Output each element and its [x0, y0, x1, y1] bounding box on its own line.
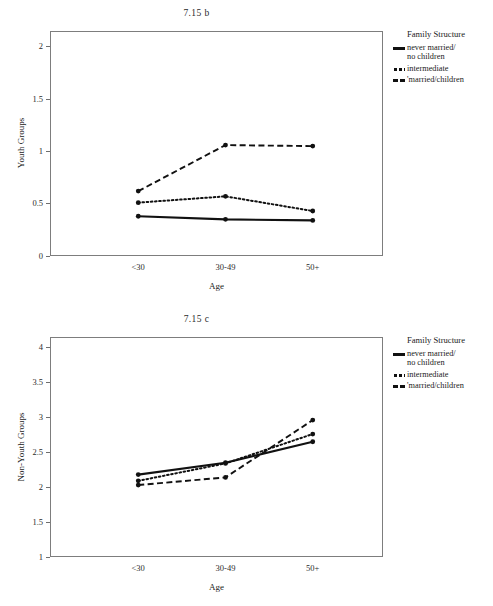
data-point: [310, 418, 315, 423]
legend-item-label: 'married/children: [407, 75, 464, 84]
legend-item-label-line2: no children: [407, 358, 465, 367]
data-point: [136, 200, 141, 205]
figure-7-15-c: 7.15 c11.522.533.54Non-Youth Groups<3030…: [0, 300, 493, 606]
data-point: [136, 478, 141, 483]
data-point: [136, 189, 141, 194]
legend-item-solid[interactable]: never married/no children: [393, 43, 465, 62]
legend-dashed-line-icon: [393, 79, 405, 82]
legend-dashed-line-icon: [393, 385, 405, 388]
legend-item-label-line2: no children: [407, 52, 465, 61]
data-point: [223, 217, 228, 222]
legend-title: Family Structure: [393, 30, 465, 40]
data-point: [223, 194, 228, 199]
data-point: [223, 143, 228, 148]
data-point: [310, 209, 315, 214]
series-line-solid: [138, 442, 312, 475]
series-line-dotted: [138, 434, 312, 481]
legend-item-label: 'married/children: [407, 381, 464, 390]
legend-item-solid[interactable]: never married/no children: [393, 349, 465, 368]
legend-solid-line-icon: [393, 353, 405, 356]
legend-item-dashed[interactable]: 'married/children: [393, 75, 465, 84]
data-point: [223, 461, 228, 466]
legend-item-label: never married/: [407, 43, 456, 52]
legend-item-dotted[interactable]: intermediate: [393, 370, 465, 379]
data-point: [136, 472, 141, 477]
legend-dotted-line-icon: [393, 374, 405, 377]
legend-dotted-line-icon: [393, 68, 405, 71]
legend: Family Structurenever married/no childre…: [393, 336, 465, 393]
data-point: [136, 483, 141, 488]
legend: Family Structurenever married/no childre…: [393, 30, 465, 87]
legend-item-label: intermediate: [407, 370, 448, 379]
data-point: [310, 218, 315, 223]
legend-item-dashed[interactable]: 'married/children: [393, 381, 465, 390]
data-point: [310, 144, 315, 149]
legend-item-dotted[interactable]: intermediate: [393, 64, 465, 73]
legend-title: Family Structure: [393, 336, 465, 346]
series-line-dashed: [138, 145, 312, 191]
legend-item-label: never married/: [407, 349, 456, 358]
data-point: [310, 439, 315, 444]
data-point: [136, 214, 141, 219]
data-point: [223, 475, 228, 480]
figure-7-15-b: 7.15 b00.511.52Youth Groups<3030-4950+Ag…: [0, 0, 493, 300]
legend-solid-line-icon: [393, 47, 405, 50]
legend-item-label: intermediate: [407, 64, 448, 73]
data-point: [310, 432, 315, 437]
